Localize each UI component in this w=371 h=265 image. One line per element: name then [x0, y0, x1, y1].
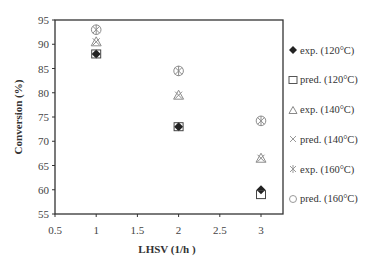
legend-item-pred-120: pred. (120°C)	[288, 68, 371, 92]
legend-label: exp. (120°C)	[300, 45, 354, 56]
legend: exp. (120°C) pred. (120°C) exp. (140°C) …	[288, 38, 371, 217]
legend-item-exp-160: exp. (160°C)	[288, 157, 371, 181]
legend-item-pred-160: pred. (160°C)	[288, 187, 371, 211]
diamond-filled-icon	[288, 45, 298, 55]
plot-area	[55, 20, 283, 214]
legend-item-exp-140: exp. (140°C)	[288, 98, 371, 122]
asterisk-marker	[175, 66, 182, 76]
y-tick-label: 90	[38, 38, 50, 50]
x-mark-icon	[288, 134, 298, 144]
y-tick-label: 60	[38, 184, 50, 196]
legend-label: pred. (120°C)	[300, 74, 358, 85]
x-tick-label: 3	[258, 224, 264, 236]
triangle-open-icon	[288, 105, 298, 115]
diamond-marker	[257, 185, 266, 194]
y-tick-label: 65	[38, 160, 50, 172]
y-tick-label: 95	[38, 14, 50, 26]
plot-border	[55, 20, 283, 214]
legend-item-exp-120: exp. (120°C)	[288, 38, 371, 62]
x-tick-label: 2.5	[213, 224, 227, 236]
legend-label: pred. (140°C)	[300, 134, 358, 145]
asterisk-marker	[93, 25, 100, 35]
y-tick-label: 75	[38, 111, 50, 123]
y-tick-label: 55	[38, 208, 50, 220]
x-tick-label: 0.5	[48, 224, 62, 236]
legend-item-pred-140: pred. (140°C)	[288, 127, 371, 151]
y-tick-label: 85	[38, 63, 50, 75]
x-axis: 0.511.522.53	[48, 214, 264, 236]
diamond-marker	[174, 122, 183, 131]
data-points	[91, 25, 266, 199]
y-tick-label: 80	[38, 87, 50, 99]
circle-open-icon	[288, 194, 298, 204]
legend-label: exp. (140°C)	[300, 104, 354, 115]
diamond-marker	[92, 49, 101, 58]
legend-label: exp. (160°C)	[300, 164, 354, 175]
x-tick-label: 1.5	[131, 224, 145, 236]
y-axis: 556065707580859095	[38, 14, 55, 220]
legend-label: pred. (160°C)	[300, 193, 358, 204]
x-tick-label: 1	[93, 224, 99, 236]
x-axis-title: LHSV (1/h )	[138, 243, 196, 256]
x-tick-label: 2	[176, 224, 182, 236]
asterisk-marker	[258, 116, 265, 126]
square-open-icon	[288, 75, 298, 85]
asterisk-icon	[288, 164, 298, 174]
y-tick-label: 70	[38, 135, 50, 147]
y-axis-title: Conversion (%)	[12, 79, 25, 154]
